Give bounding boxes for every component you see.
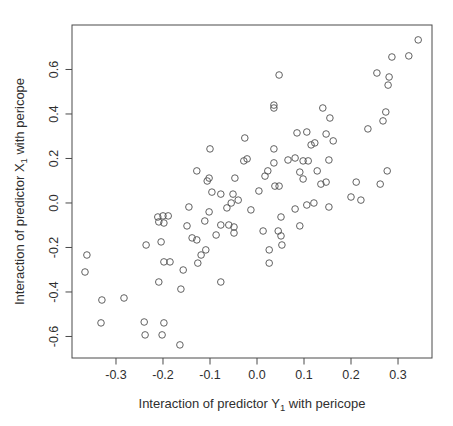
- data-point: [198, 252, 205, 259]
- data-point: [260, 228, 267, 235]
- data-point: [358, 197, 365, 204]
- data-point: [389, 54, 396, 61]
- data-point: [167, 259, 174, 266]
- x-tick-label: -0.1: [199, 368, 221, 382]
- data-point: [278, 214, 285, 221]
- data-point: [292, 206, 299, 213]
- data-point: [266, 260, 273, 267]
- data-point: [300, 176, 307, 183]
- data-point: [248, 207, 255, 214]
- data-point: [161, 320, 168, 327]
- data-point: [121, 295, 128, 302]
- data-point: [195, 260, 202, 267]
- data-point: [218, 191, 225, 198]
- data-point: [141, 319, 148, 326]
- data-point: [386, 74, 393, 81]
- data-point: [320, 105, 327, 112]
- data-point: [84, 252, 91, 259]
- data-point: [285, 157, 292, 164]
- data-point: [235, 197, 242, 204]
- data-point: [374, 70, 381, 77]
- x-tick-label: 0.2: [342, 368, 359, 382]
- data-point: [276, 72, 283, 79]
- data-point: [178, 286, 185, 293]
- data-point: [327, 115, 334, 122]
- data-point: [230, 191, 237, 198]
- y-tick-label: -0.4: [47, 281, 61, 303]
- data-point: [161, 259, 168, 266]
- data-point: [415, 37, 422, 44]
- data-point: [380, 118, 387, 125]
- data-point: [207, 146, 214, 153]
- data-point: [82, 269, 89, 276]
- x-axis-title: Interaction of predictor Y1 with pericop…: [139, 396, 366, 413]
- y-axis: -0.6-0.4-0.20.00.20.40.6: [47, 61, 72, 348]
- data-point: [304, 202, 311, 209]
- data-point: [275, 228, 282, 235]
- data-point: [276, 183, 283, 190]
- y-tick-label: 0.4: [47, 105, 61, 122]
- data-point: [278, 233, 285, 240]
- data-point: [202, 218, 209, 225]
- x-tick-label: -0.2: [152, 368, 174, 382]
- plot-box: [72, 25, 432, 358]
- data-points: [82, 37, 422, 349]
- data-point: [232, 175, 239, 182]
- data-point: [304, 129, 311, 136]
- data-point: [311, 200, 318, 207]
- data-point: [348, 194, 355, 201]
- data-point: [323, 131, 330, 138]
- data-point: [326, 157, 333, 164]
- data-point: [180, 267, 187, 274]
- data-point: [143, 242, 150, 249]
- y-axis-title: Interaction of predictor X1 with pericop…: [12, 78, 29, 305]
- y-tick-label: 0.0: [47, 194, 61, 211]
- data-point: [218, 222, 225, 229]
- data-point: [365, 126, 372, 133]
- data-point: [297, 223, 304, 230]
- x-tick-label: -0.3: [105, 368, 127, 382]
- data-point: [266, 247, 273, 254]
- data-point: [385, 82, 392, 89]
- data-point: [98, 320, 105, 327]
- data-point: [262, 173, 269, 180]
- data-point: [330, 138, 337, 145]
- data-point: [314, 168, 321, 175]
- x-tick-label: 0.1: [295, 368, 312, 382]
- data-point: [156, 279, 163, 286]
- data-point: [294, 130, 301, 137]
- data-point: [213, 232, 220, 239]
- data-point: [383, 109, 390, 116]
- data-point: [297, 169, 304, 176]
- data-point: [353, 179, 360, 186]
- data-point: [186, 204, 193, 211]
- y-tick-label: 0.6: [47, 61, 61, 78]
- data-point: [242, 135, 249, 142]
- scatter-plot-figure: -0.3-0.2-0.10.00.10.20.3-0.6-0.4-0.20.00…: [0, 0, 453, 426]
- y-tick-label: -0.2: [47, 237, 61, 259]
- data-point: [326, 204, 333, 211]
- y-tick-label: -0.6: [47, 326, 61, 348]
- data-point: [406, 53, 413, 60]
- data-point: [218, 279, 225, 286]
- data-point: [209, 189, 216, 196]
- y-tick-label: 0.2: [47, 150, 61, 167]
- data-point: [142, 332, 149, 339]
- scatter-plot: -0.3-0.2-0.10.00.10.20.3-0.6-0.4-0.20.00…: [0, 0, 453, 426]
- x-tick-label: 0.0: [248, 368, 265, 382]
- data-point: [99, 297, 106, 304]
- data-point: [384, 168, 391, 175]
- data-point: [292, 155, 299, 162]
- data-point: [228, 200, 235, 207]
- data-point: [159, 332, 166, 339]
- data-point: [271, 146, 278, 153]
- data-point: [377, 181, 384, 188]
- x-tick-label: 0.3: [389, 368, 406, 382]
- data-point: [305, 158, 312, 165]
- x-axis: -0.3-0.2-0.10.00.10.20.3: [105, 358, 407, 382]
- data-point: [194, 168, 201, 175]
- data-point: [206, 209, 213, 216]
- data-point: [279, 242, 286, 249]
- data-point: [256, 188, 263, 195]
- data-point: [271, 160, 278, 167]
